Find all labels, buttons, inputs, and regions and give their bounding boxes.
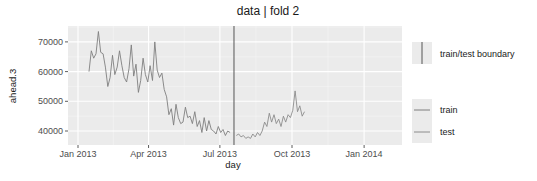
y-tick-label: 70000 bbox=[38, 37, 63, 47]
line-chart: data | fold 2 40000500006000070000 Jan 2… bbox=[0, 0, 537, 181]
y-axis: 40000500006000070000 bbox=[38, 37, 68, 136]
plot-panel bbox=[68, 26, 402, 145]
legend-label-train: train bbox=[440, 105, 458, 115]
y-tick-label: 50000 bbox=[38, 96, 63, 106]
x-axis: Jan 2013Apr 2013Jul 2013Oct 2013Jan 2014 bbox=[59, 145, 382, 159]
y-tick-label: 60000 bbox=[38, 67, 63, 77]
x-tick-label: Jul 2013 bbox=[203, 149, 237, 159]
x-tick-label: Jan 2013 bbox=[59, 149, 96, 159]
legend-key-background bbox=[412, 99, 432, 143]
chart-title: data | fold 2 bbox=[237, 4, 300, 18]
x-tick-label: Apr 2013 bbox=[130, 149, 167, 159]
legend-label-boundary: train/test boundary bbox=[440, 49, 515, 59]
legend: train/test boundary train test bbox=[412, 42, 515, 143]
y-tick-label: 40000 bbox=[38, 126, 63, 136]
legend-item-boundary: train/test boundary bbox=[412, 42, 515, 64]
x-tick-label: Oct 2013 bbox=[274, 149, 311, 159]
y-axis-title: ahead.3 bbox=[7, 69, 18, 103]
legend-label-test: test bbox=[440, 127, 455, 137]
x-axis-title: day bbox=[225, 159, 241, 170]
x-tick-label: Jan 2014 bbox=[346, 149, 383, 159]
